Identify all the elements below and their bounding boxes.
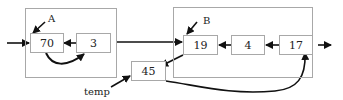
node-3: 3 bbox=[76, 33, 111, 53]
node-19: 19 bbox=[183, 35, 218, 55]
node-4: 4 bbox=[231, 35, 265, 55]
node-70: 70 bbox=[30, 33, 64, 53]
label-b: B bbox=[203, 15, 210, 26]
node-45: 45 bbox=[131, 61, 166, 81]
label-temp: temp bbox=[84, 86, 110, 97]
label-a: A bbox=[48, 13, 55, 24]
node-17: 17 bbox=[279, 35, 313, 55]
linked-list-diagram: A B temp 70 3 19 4 17 45 bbox=[0, 0, 343, 100]
